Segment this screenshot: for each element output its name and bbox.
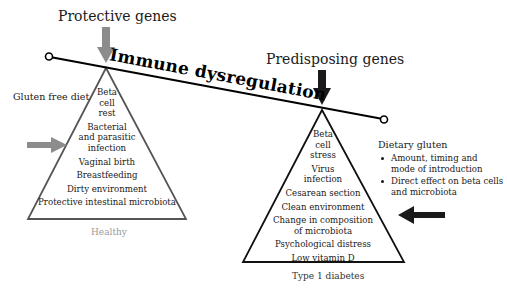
bullet-amount-timing: Amount, timing and mode of introduction [378, 153, 503, 174]
diabetes-factors-list: Beta cell stress Virus infection Cesarea… [273, 129, 373, 264]
dietary-gluten-block: Dietary gluten Amount, timing and mode o… [378, 140, 503, 199]
factor-psychological-distress: Psychological distress [273, 239, 373, 250]
dietary-gluten-label: Dietary gluten [378, 140, 503, 150]
healthy-caption: Healthy [91, 228, 127, 237]
immune-balance-diagram: Protective genes Predisposing genes Immu… [0, 0, 507, 291]
beam-end-left-icon [46, 53, 53, 60]
healthy-factors-list: Beta cell rest Bacterial and parasitic i… [38, 87, 176, 208]
factor-microbiota-change: Change in composition of microbiota [273, 215, 373, 236]
factor-cesarean-section: Cesarean section [273, 188, 373, 199]
predisposing-genes-heading: Predisposing genes [266, 52, 404, 66]
dietary-gluten-bullets: Amount, timing and mode of introduction … [378, 153, 503, 197]
factor-beta-cell-rest: Beta cell rest [38, 87, 176, 119]
factor-bacterial-parasitic-infection: Bacterial and parasitic infection [38, 122, 176, 154]
arrow-left-black-icon [398, 206, 445, 224]
factor-breastfeeding: Breastfeeding [38, 170, 176, 181]
factor-dirty-environment: Dirty environment [38, 184, 176, 195]
factor-beta-cell-stress: Beta cell stress [273, 129, 373, 161]
factor-clean-environment: Clean environment [273, 202, 373, 213]
factor-low-vitamin-d: Low vitamin D [273, 253, 373, 264]
factor-virus-infection: Virus infection [273, 164, 373, 185]
protective-genes-heading: Protective genes [58, 9, 177, 23]
type1-diabetes-caption: Type 1 diabetes [292, 272, 364, 281]
factor-protective-microbiota: Protective intestinal microbiota [38, 197, 176, 208]
bullet-direct-effect: Direct effect on beta cells and microbio… [378, 176, 503, 197]
factor-vaginal-birth: Vaginal birth [38, 157, 176, 168]
beam-end-right-icon [381, 116, 388, 123]
